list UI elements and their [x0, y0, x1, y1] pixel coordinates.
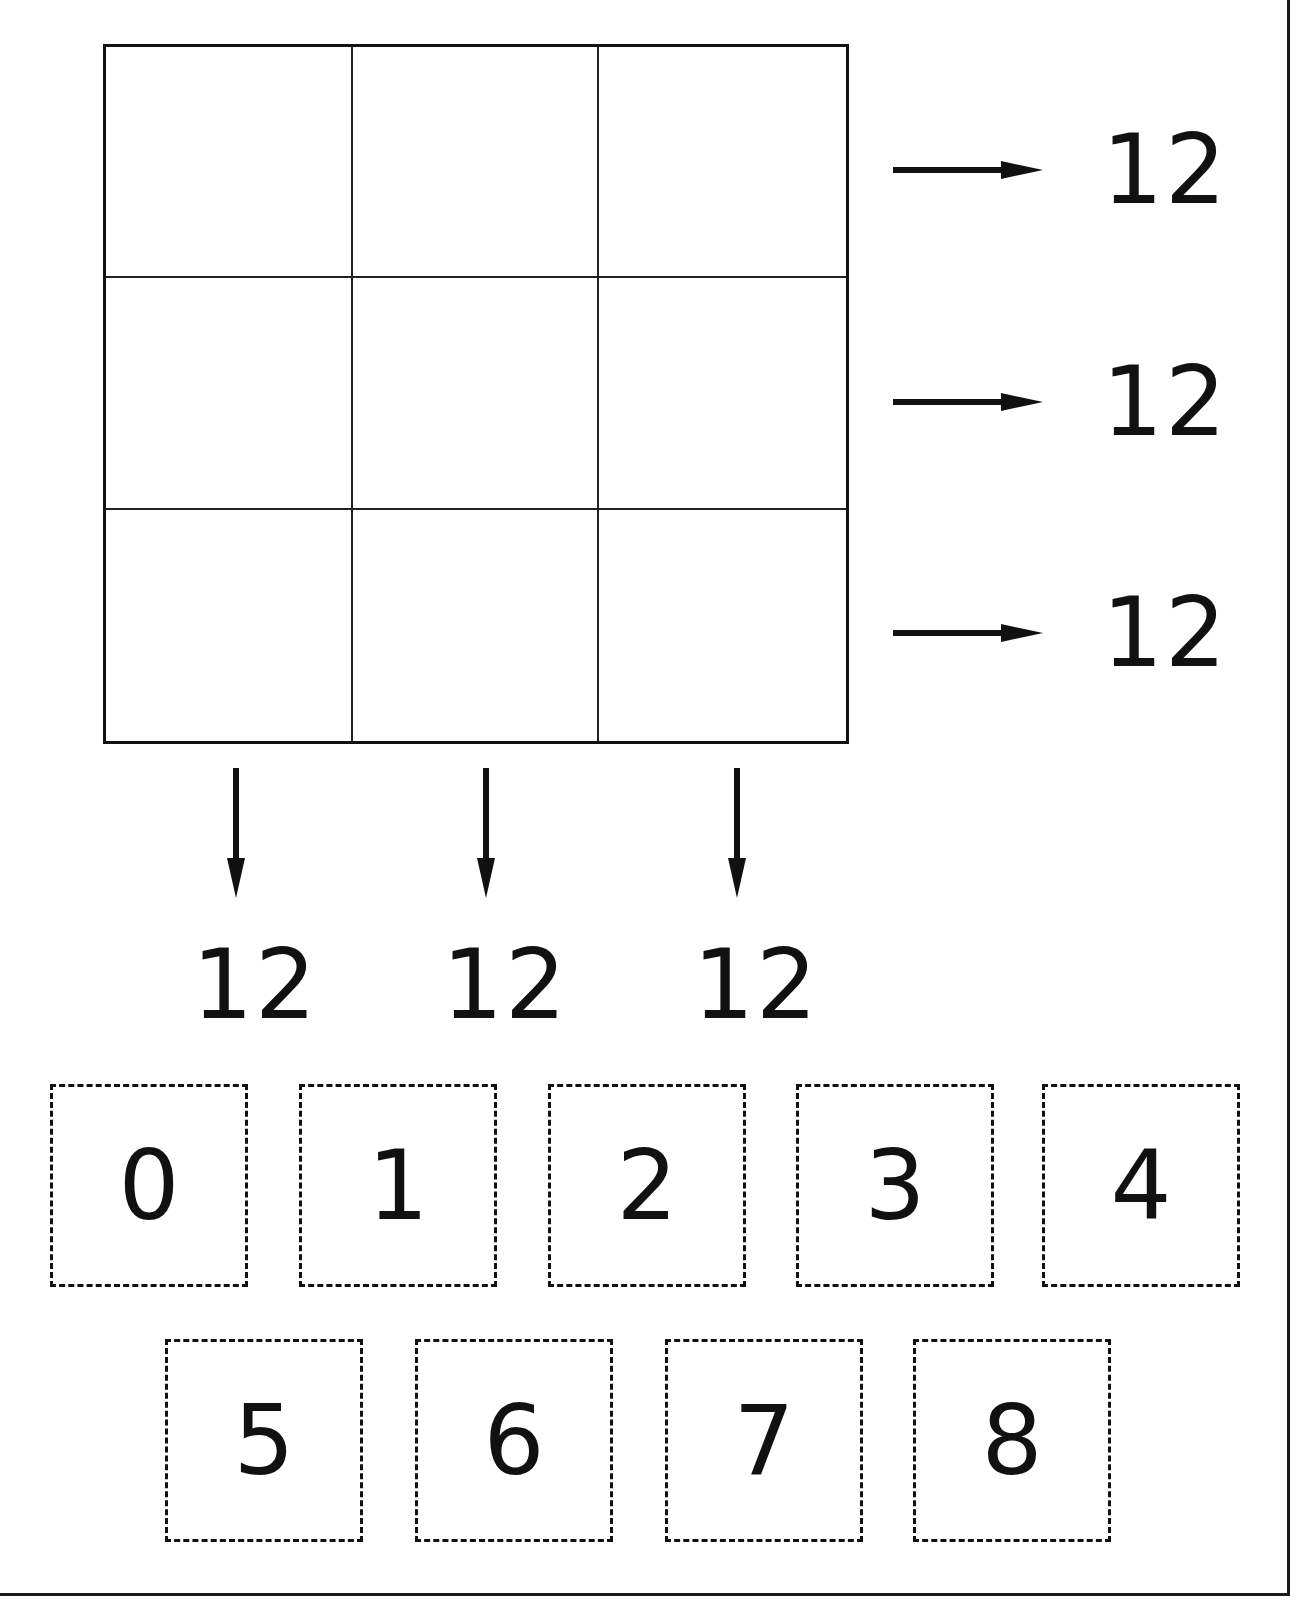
number-tile-6[interactable]: 6 — [415, 1339, 613, 1542]
page-frame-bottom-border — [0, 1593, 1290, 1596]
row-sum-3: 12 — [1102, 585, 1228, 681]
number-tile-4[interactable]: 4 — [1042, 1084, 1240, 1287]
grid-cell-r2-c1[interactable] — [106, 278, 353, 509]
arrow-right-icon — [893, 392, 1043, 412]
tile-number: 4 — [1110, 1138, 1171, 1234]
number-tile-8[interactable]: 8 — [913, 1339, 1111, 1542]
number-tile-3[interactable]: 3 — [796, 1084, 994, 1287]
arrow-right-icon — [893, 160, 1043, 180]
grid-cell-r2-c3[interactable] — [599, 278, 846, 509]
arrow-down-icon — [476, 768, 496, 898]
number-tile-1[interactable]: 1 — [299, 1084, 497, 1287]
tile-number: 6 — [483, 1393, 544, 1489]
arrow-down-icon — [226, 768, 246, 898]
grid-cell-r2-c2[interactable] — [353, 278, 600, 509]
tile-number: 3 — [864, 1138, 925, 1234]
tile-number: 2 — [616, 1138, 677, 1234]
arrow-down-icon — [727, 768, 747, 898]
tile-number: 7 — [733, 1393, 794, 1489]
column-sum-1: 12 — [192, 937, 318, 1033]
tile-number: 8 — [981, 1393, 1042, 1489]
grid-cell-r3-c2[interactable] — [353, 510, 600, 741]
page-frame-right-border — [1287, 0, 1290, 1596]
row-sum-1: 12 — [1102, 122, 1228, 218]
tile-number: 5 — [233, 1393, 294, 1489]
column-sum-3: 12 — [693, 937, 819, 1033]
arrow-right-icon — [893, 623, 1043, 643]
grid-cell-r1-c3[interactable] — [599, 47, 846, 278]
number-tile-0[interactable]: 0 — [50, 1084, 248, 1287]
number-tile-2[interactable]: 2 — [548, 1084, 746, 1287]
column-sum-2: 12 — [442, 937, 568, 1033]
grid-cell-r1-c1[interactable] — [106, 47, 353, 278]
magic-square-grid — [103, 44, 849, 744]
tile-number: 1 — [367, 1138, 428, 1234]
tile-number: 0 — [118, 1138, 179, 1234]
number-tile-7[interactable]: 7 — [665, 1339, 863, 1542]
row-sum-2: 12 — [1102, 354, 1228, 450]
number-tile-5[interactable]: 5 — [165, 1339, 363, 1542]
grid-cell-r3-c3[interactable] — [599, 510, 846, 741]
grid-cell-r1-c2[interactable] — [353, 47, 600, 278]
grid-cell-r3-c1[interactable] — [106, 510, 353, 741]
